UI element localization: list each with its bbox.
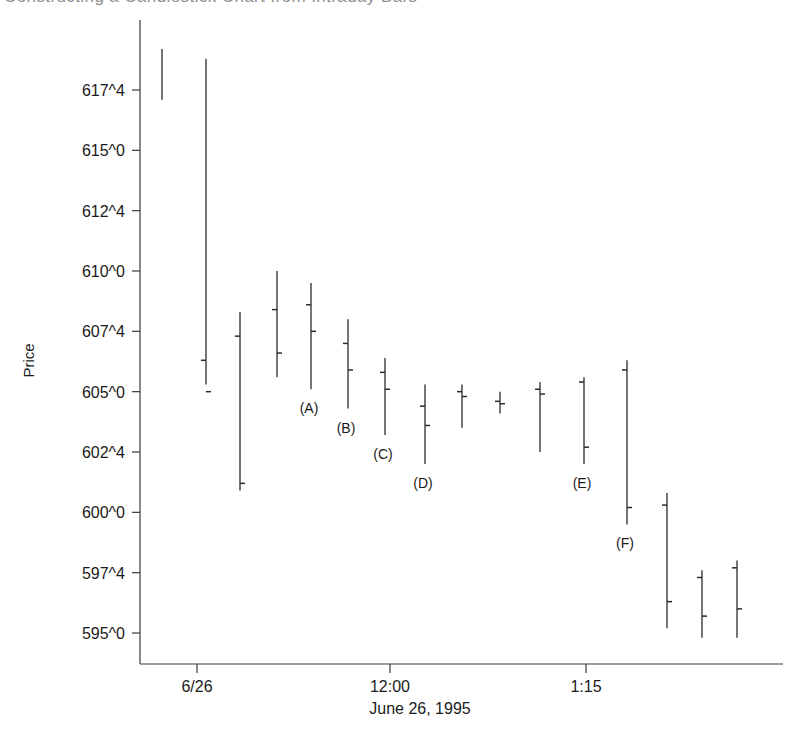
y-tick-label: 605^0 (82, 384, 125, 401)
x-tick-label: 12:00 (370, 678, 410, 695)
bar-annotation-label: (B) (337, 420, 356, 436)
y-tick-label: 600^0 (82, 504, 125, 521)
bar-annotation-label: (E) (573, 475, 592, 491)
ohlc-bar (697, 570, 707, 638)
ohlc-bars (162, 49, 742, 638)
x-axis: 6/2612:001:15 (140, 664, 783, 695)
ohlc-bar (343, 319, 353, 408)
y-tick-label: 610^0 (82, 263, 125, 280)
ohlc-bar-chart: Constructing a Candlestick Chart from In… (0, 0, 787, 751)
ohlc-bar (306, 283, 316, 389)
ohlc-bar (235, 312, 245, 491)
y-axis: 617^4615^0612^4610^0607^4605^0602^4600^0… (82, 20, 140, 664)
ohlc-bar (495, 392, 505, 414)
ohlc-bar (535, 382, 545, 452)
ohlc-bar (380, 358, 390, 435)
x-tick-label: 1:15 (570, 678, 601, 695)
y-tick-label: 602^4 (82, 444, 125, 461)
bar-annotation-label: (F) (616, 535, 634, 551)
x-tick-label: 6/26 (181, 678, 212, 695)
y-tick-label: 597^4 (82, 565, 125, 582)
y-tick-label: 617^4 (82, 82, 125, 99)
chart-canvas: 617^4615^0612^4610^0607^4605^0602^4600^0… (0, 0, 787, 751)
ohlc-bar (457, 384, 467, 427)
ohlc-bar (272, 271, 282, 377)
bar-annotation-label: (A) (300, 400, 319, 416)
bar-annotation-label: (C) (373, 446, 392, 462)
y-tick-label: 612^4 (82, 203, 125, 220)
bar-annotation-label: (D) (413, 475, 432, 491)
ohlc-bar (732, 561, 742, 638)
y-tick-label: 595^0 (82, 625, 125, 642)
y-tick-label: 607^4 (82, 323, 125, 340)
ohlc-bar (420, 384, 430, 464)
ohlc-bar (622, 360, 632, 524)
ohlc-bar (201, 59, 211, 392)
ohlc-bar (579, 377, 589, 464)
ohlc-bar (662, 493, 672, 628)
y-tick-label: 615^0 (82, 142, 125, 159)
